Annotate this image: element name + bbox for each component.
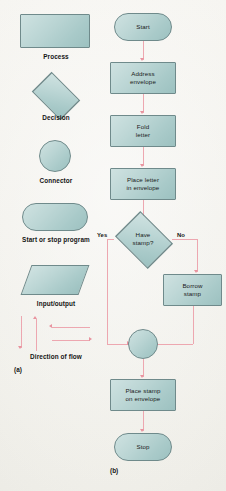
flow-node-place-stamp xyxy=(110,379,176,411)
figure-flowchart-symbols-and-mailing-flowchart: Process Decision Connector Start or stop… xyxy=(0,0,226,491)
legend-decision-body xyxy=(32,72,81,121)
flow-arrowhead-borrow xyxy=(194,270,198,273)
flow-arrowhead-stop xyxy=(140,429,144,432)
legend-shape-terminator xyxy=(22,203,88,231)
legend-arrow-down-head xyxy=(18,346,22,349)
flow-arrowhead-place-letter xyxy=(140,164,144,167)
flow-arrowhead-fold xyxy=(140,111,144,114)
legend-label-terminator: Start or stop program xyxy=(0,236,112,243)
flow-node-connector xyxy=(128,329,158,359)
legend-label-process: Process xyxy=(0,53,112,60)
flow-branch-label-yes: Yes xyxy=(97,232,107,238)
legend-arrow-left-head xyxy=(49,324,52,328)
legend-arrow-up-line xyxy=(36,319,37,351)
part-label-a: (a) xyxy=(14,366,22,373)
flow-node-address-envelope xyxy=(110,62,176,94)
legend-arrow-right-head xyxy=(89,337,92,341)
flow-arrowhead-address xyxy=(140,58,144,61)
legend-shape-input-output xyxy=(21,265,90,295)
legend-arrow-right-line xyxy=(52,340,90,341)
flow-node-place-letter xyxy=(110,168,176,200)
flow-node-fold-letter xyxy=(110,115,176,147)
flow-arrowhead-place-stamp xyxy=(140,375,144,378)
flow-node-have-stamp-body xyxy=(115,211,173,269)
legend-shape-decision xyxy=(28,82,82,108)
legend-arrow-up-head xyxy=(33,316,37,319)
flow-edge-yes-vertical xyxy=(107,239,108,344)
legend-label-decision: Decision xyxy=(0,114,112,121)
flow-node-have-stamp xyxy=(112,222,174,256)
flow-node-start xyxy=(114,13,172,41)
legend-shape-connector xyxy=(39,140,71,172)
flow-edge-no-vertical xyxy=(197,239,198,272)
flow-edge-borrow-vertical xyxy=(193,306,194,344)
flow-edge-borrow-into-connector xyxy=(156,344,193,345)
flow-edge-yes-horizontal xyxy=(107,239,114,240)
legend-label-connector: Connector xyxy=(0,177,112,184)
legend-arrow-left-line xyxy=(52,327,90,328)
flow-node-stop xyxy=(114,433,172,461)
flow-node-borrow-stamp xyxy=(163,274,222,306)
part-label-b: (b) xyxy=(110,467,118,474)
legend-label-input-output: Input/output xyxy=(0,300,112,307)
flow-edge-place-stamp-stop xyxy=(143,411,144,431)
flow-edge-no-horizontal xyxy=(172,239,197,240)
legend-shape-process xyxy=(20,14,90,48)
flow-branch-label-no: No xyxy=(177,232,185,238)
legend-label-direction-of-flow: Direction of flow xyxy=(0,353,112,360)
legend-arrow-down-line xyxy=(21,316,22,348)
